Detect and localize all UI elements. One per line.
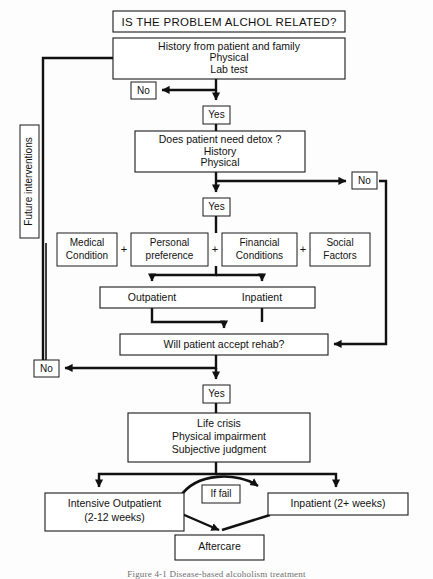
node-yes-2-label: Yes — [208, 201, 224, 212]
node-inpatient-setting-label: Inpatient — [242, 291, 282, 303]
connector-lifecrisis-to-treatments — [99, 462, 336, 487]
flowchart-svg: IS THE PROBLEM ALCHOL RELATED? History f… — [0, 0, 433, 579]
node-no-1-label: No — [137, 85, 150, 96]
node-yes-1-label: Yes — [208, 109, 224, 120]
node-no-2-label: No — [358, 175, 371, 186]
node-no-1: No — [131, 82, 156, 99]
node-life-line1: Life crisis — [197, 417, 241, 429]
node-title-label: IS THE PROBLEM ALCHOL RELATED? — [121, 16, 336, 28]
node-rehab-question: Will patient accept rehab? — [120, 334, 328, 355]
node-history-line2: Physical — [209, 51, 248, 63]
node-medical-line2: Condition — [66, 250, 108, 261]
node-social-line2: Factors — [323, 250, 356, 261]
node-yes-3-label: Yes — [208, 388, 224, 399]
flowchart-canvas: IS THE PROBLEM ALCHOL RELATED? History f… — [0, 0, 433, 579]
node-financial-conditions: Financial Conditions — [222, 233, 297, 266]
node-financial-line1: Financial — [239, 237, 279, 248]
node-yes-3: Yes — [203, 385, 230, 403]
node-medical-condition: Medical Condition — [57, 233, 117, 266]
node-intensive-line2: (2-12 weeks) — [84, 511, 145, 523]
node-inpatient-weeks-label: Inpatient (2+ weeks) — [291, 497, 386, 509]
node-aftercare-label: Aftercare — [198, 540, 241, 552]
plus-sign-1: + — [121, 243, 127, 255]
plus-sign-3: + — [300, 243, 306, 255]
node-yes-2: Yes — [203, 198, 230, 216]
node-personal-line2: preference — [146, 250, 194, 261]
node-life-line3: Subjective judgment — [172, 443, 267, 455]
node-inpatient-weeks: Inpatient (2+ weeks) — [268, 493, 408, 515]
node-detox-line1: Does patient need detox ? — [159, 133, 282, 145]
node-social-line1: Social — [326, 237, 353, 248]
node-intensive-outpatient: Intensive Outpatient (2-12 weeks) — [45, 493, 184, 531]
connector-inpatient-to-aftercare — [222, 515, 270, 530]
node-detox-line2: History — [204, 145, 237, 157]
node-detox: Does patient need detox ? History Physic… — [135, 131, 305, 172]
node-future-interventions: Future interventions — [20, 125, 39, 238]
node-future-label: Future interventions — [23, 137, 34, 225]
connector-setting-to-rehab — [152, 308, 262, 328]
node-history-line1: History from patient and family — [158, 40, 301, 52]
node-life-crisis: Life crisis Physical impairment Subjecti… — [128, 413, 310, 462]
node-personal-line1: Personal — [150, 237, 189, 248]
connector-intensive-to-aftercare — [182, 514, 219, 530]
node-life-line2: Physical impairment — [172, 430, 266, 442]
node-detox-line3: Physical — [200, 156, 239, 168]
node-title: IS THE PROBLEM ALCHOL RELATED? — [113, 11, 345, 32]
node-history: History from patient and family Physical… — [113, 38, 345, 79]
connector-rehab-to-no3 — [65, 355, 216, 368]
node-if-fail: If fail — [202, 485, 240, 503]
node-history-line3: Lab test — [210, 63, 247, 75]
node-intensive-line1: Intensive Outpatient — [68, 497, 161, 509]
connector-factors-to-setting — [152, 266, 262, 281]
node-rehab-label: Will patient accept rehab? — [164, 338, 285, 350]
node-no-3: No — [34, 360, 59, 377]
figure-caption: Figure 4-1 Disease-based alcoholism trea… — [0, 569, 433, 579]
node-no-2: No — [352, 172, 377, 189]
node-outpatient-label: Outpatient — [128, 291, 177, 303]
node-social-factors: Social Factors — [310, 233, 370, 266]
node-medical-line1: Medical — [70, 237, 104, 248]
plus-sign-2: + — [212, 243, 218, 255]
node-aftercare: Aftercare — [175, 535, 264, 560]
node-if-fail-label: If fail — [210, 488, 231, 499]
connector-future-loop-to-history — [43, 58, 168, 372]
node-personal-preference: Personal preference — [131, 233, 208, 266]
node-yes-1: Yes — [203, 106, 230, 124]
node-setting: Outpatient Inpatient — [100, 287, 315, 308]
node-financial-line2: Conditions — [236, 250, 283, 261]
node-no-3-label: No — [40, 363, 53, 374]
